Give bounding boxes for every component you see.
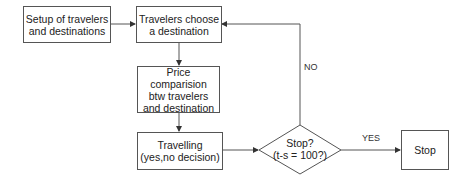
- edge-label-no: NO: [304, 62, 318, 72]
- node-choose-line2: a destination: [139, 25, 219, 37]
- node-stop: Stop: [401, 130, 449, 170]
- node-price: Price comparision btw travelers and dest…: [137, 66, 220, 113]
- edge-decision-to-choose: [222, 24, 300, 125]
- node-setup: Setup of travelers and destinations: [23, 6, 111, 43]
- node-choose-line1: Travelers choose: [139, 13, 219, 25]
- node-choose: Travelers choose a destination: [136, 6, 222, 43]
- node-price-line1: Price comparision: [138, 66, 219, 90]
- node-travel-line2: (yes,no decision): [140, 151, 219, 163]
- node-travel: Travelling (yes,no decision): [137, 132, 223, 170]
- node-decision: Stop? (t-s = 100?): [262, 137, 338, 161]
- node-stop-label: Stop: [414, 144, 436, 156]
- node-price-line2: btw travelers: [138, 90, 219, 102]
- node-decision-line1: Stop?: [262, 137, 338, 149]
- edge-label-yes: YES: [362, 133, 380, 143]
- node-travel-line1: Travelling: [140, 139, 219, 151]
- node-setup-line2: and destinations: [26, 25, 108, 37]
- node-decision-line2: (t-s = 100?): [262, 149, 338, 161]
- node-setup-line1: Setup of travelers: [26, 13, 108, 25]
- node-price-line3: and destination: [138, 102, 219, 114]
